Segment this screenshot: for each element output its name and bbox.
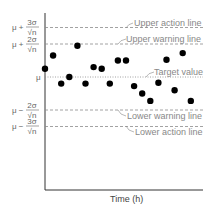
y-tick-plus2: μ + 2σ √n bbox=[12, 35, 39, 54]
upper-action-label: Upper action line bbox=[134, 18, 202, 28]
data-point bbox=[163, 57, 169, 63]
y-tick-denominator: √n bbox=[28, 127, 37, 136]
data-point bbox=[90, 64, 96, 70]
y-tick-minus3: μ − 3σ √n bbox=[12, 117, 39, 136]
data-point bbox=[58, 80, 64, 86]
data-point bbox=[74, 43, 80, 49]
data-point bbox=[50, 52, 56, 58]
target-label: Target value bbox=[154, 67, 203, 77]
data-point bbox=[180, 50, 186, 56]
control-chart: μ + 3σ √n μ + 2σ √n μ μ − 2σ √n μ − 3σ √… bbox=[0, 0, 216, 215]
y-tick-numerator: 3σ bbox=[27, 117, 36, 126]
y-tick-prefix: μ − bbox=[12, 122, 24, 131]
annotation-upper-warning: Upper warning line bbox=[118, 34, 201, 44]
data-point bbox=[139, 90, 145, 96]
data-point bbox=[99, 66, 105, 72]
y-tick-denominator: √n bbox=[28, 45, 37, 54]
annotation-target: Target value bbox=[146, 67, 203, 77]
data-point bbox=[171, 87, 177, 93]
data-point bbox=[131, 83, 137, 89]
y-tick-prefix: μ + bbox=[12, 40, 24, 49]
upper-warning-label: Upper warning line bbox=[126, 34, 201, 44]
data-point bbox=[147, 98, 153, 104]
annotation-lower-warning: Lower warning line bbox=[118, 110, 202, 121]
data-point bbox=[82, 80, 88, 86]
lower-warning-label: Lower warning line bbox=[127, 111, 202, 121]
annotation-upper-action: Upper action line bbox=[126, 18, 202, 28]
y-tick-numerator: 3σ bbox=[27, 18, 36, 27]
y-tick-prefix: μ − bbox=[12, 106, 24, 115]
data-point bbox=[115, 57, 121, 63]
y-tick-numerator: 2σ bbox=[27, 35, 36, 44]
y-tick-mu-label: μ bbox=[36, 73, 41, 82]
data-point bbox=[188, 98, 194, 104]
data-point bbox=[107, 80, 113, 86]
data-point bbox=[155, 80, 161, 86]
x-axis-label: Time (h) bbox=[110, 194, 143, 204]
y-tick-mu: μ bbox=[36, 73, 41, 82]
data-point bbox=[42, 66, 48, 72]
data-point bbox=[66, 74, 72, 80]
lower-action-label: Lower action line bbox=[135, 127, 203, 137]
y-tick-prefix: μ + bbox=[12, 23, 24, 32]
annotation-lower-action: Lower action line bbox=[126, 126, 203, 137]
y-tick-numerator: 2σ bbox=[27, 101, 36, 110]
data-point bbox=[123, 57, 129, 63]
